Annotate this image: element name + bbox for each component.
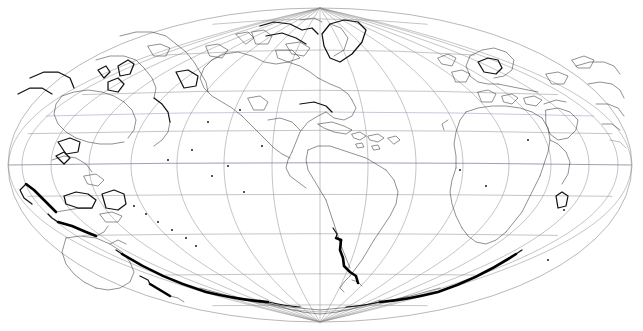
world-map-svg [0, 0, 643, 331]
map-figure-container [0, 0, 643, 331]
